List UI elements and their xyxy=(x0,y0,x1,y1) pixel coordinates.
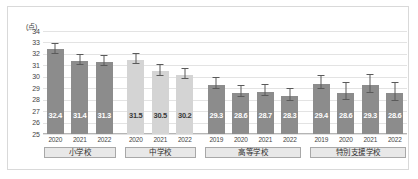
bar-value-label: 31.5 xyxy=(127,112,144,120)
bar-group-item[interactable]: 31.4 xyxy=(71,31,88,134)
bar[interactable] xyxy=(176,75,193,135)
y-axis-tick-label: 30 xyxy=(25,73,40,80)
bar-group-item[interactable]: 28.6 xyxy=(232,31,249,134)
error-bar-cap-upper xyxy=(181,68,188,69)
error-bar-cap-lower xyxy=(262,95,269,96)
bar-group-item[interactable]: 29.4 xyxy=(313,31,330,134)
group-label-高等学校: 高等学校 xyxy=(205,147,301,158)
error-bar-cap-upper xyxy=(213,77,220,78)
bar-group-item[interactable]: 28.6 xyxy=(386,31,403,134)
error-bar-cap-upper xyxy=(318,75,325,76)
error-bar-cap-lower xyxy=(52,53,59,54)
y-axis-tick-label: 28 xyxy=(25,96,40,103)
error-bar-cap-lower xyxy=(391,100,398,101)
bar-group-item[interactable]: 31.5 xyxy=(127,31,144,134)
error-bar-cap-lower xyxy=(318,88,325,89)
x-axis-tick-label: 2019 xyxy=(309,136,334,144)
y-axis-tick-label: 26 xyxy=(25,119,40,126)
bar[interactable] xyxy=(71,61,88,134)
plot-area: 32.431.431.331.530.530.229.328.628.728.3… xyxy=(43,31,407,134)
bar-value-label: 28.7 xyxy=(257,112,274,120)
bar-group-item[interactable]: 30.2 xyxy=(176,31,193,134)
error-bar-cap-upper xyxy=(132,53,139,54)
x-axis-tick-label: 2022 xyxy=(383,136,408,144)
group-labels: 小学校中学校高等学校特別支援学校 xyxy=(43,147,407,161)
x-axis-tick-label: 2022 xyxy=(92,136,117,144)
bar-value-label: 31.4 xyxy=(71,112,88,120)
x-axis-tick-label: 2020 xyxy=(229,136,254,144)
y-axis-tick-label: 31 xyxy=(25,62,40,69)
bar-value-label: 30.5 xyxy=(152,112,169,120)
bar-value-label: 29.3 xyxy=(362,112,379,120)
x-axis-tick-label: 2021 xyxy=(148,136,173,144)
bar-group-item[interactable]: 29.3 xyxy=(208,31,225,134)
bar-value-label: 28.6 xyxy=(386,112,403,120)
bar-value-label: 29.3 xyxy=(208,112,225,120)
error-bar-cap-upper xyxy=(76,54,83,55)
error-bar-cap-upper xyxy=(262,84,269,85)
x-axis-tick-label: 2020 xyxy=(124,136,149,144)
x-axis-tick-label: 2021 xyxy=(68,136,93,144)
error-bar xyxy=(394,83,395,101)
error-bar-cap-lower xyxy=(181,78,188,79)
bar-value-label: 30.2 xyxy=(176,112,193,120)
bar-value-label: 28.3 xyxy=(281,112,298,120)
bar-group-item[interactable]: 28.7 xyxy=(257,31,274,134)
x-axis-tick-label: 2022 xyxy=(278,136,303,144)
bar-group-item[interactable]: 28.3 xyxy=(281,31,298,134)
y-axis-tick-label: 29 xyxy=(25,85,40,92)
error-bar-cap-upper xyxy=(367,74,374,75)
y-axis-tick-label: 27 xyxy=(25,108,40,115)
bar-value-label: 29.4 xyxy=(313,112,330,120)
group-label-特別支援学校: 特別支援学校 xyxy=(310,147,406,158)
x-axis-tick-label: 2022 xyxy=(173,136,198,144)
x-axis-tick-label: 2019 xyxy=(204,136,229,144)
error-bar-cap-upper xyxy=(52,43,59,44)
error-bar-cap-lower xyxy=(237,96,244,97)
bar-value-label: 31.3 xyxy=(96,112,113,120)
group-label-小学校: 小学校 xyxy=(44,147,116,158)
error-bar-cap-lower xyxy=(213,88,220,89)
bar[interactable] xyxy=(127,60,144,134)
group-label-中学校: 中学校 xyxy=(125,147,197,158)
y-axis: 25262728293031323334 xyxy=(23,31,40,134)
bar[interactable] xyxy=(96,62,113,134)
bar-group-item[interactable]: 28.6 xyxy=(337,31,354,134)
error-bar xyxy=(345,83,346,100)
error-bar xyxy=(321,76,322,90)
bar[interactable] xyxy=(152,71,169,134)
bar-group-item[interactable]: 32.4 xyxy=(47,31,64,134)
x-axis-tick-label: 2021 xyxy=(253,136,278,144)
x-axis-tick-label: 2020 xyxy=(43,136,68,144)
error-bar-cap-upper xyxy=(237,85,244,86)
error-bar-cap-lower xyxy=(367,92,374,93)
bar-group-item[interactable]: 31.3 xyxy=(96,31,113,134)
y-axis-tick-label: 32 xyxy=(25,50,40,57)
x-axis-tick-label: 2020 xyxy=(334,136,359,144)
y-axis-tick-label: 33 xyxy=(25,39,40,46)
error-bar-cap-upper xyxy=(286,88,293,89)
y-axis-tick-label: 34 xyxy=(25,28,40,35)
x-axis-tick-label: 2021 xyxy=(358,136,383,144)
chart-frame: (点) 25262728293031323334 32.431.431.331.… xyxy=(7,6,409,170)
error-bar-cap-lower xyxy=(286,100,293,101)
error-bar xyxy=(370,75,371,93)
error-bar-cap-lower xyxy=(76,64,83,65)
error-bar-cap-upper xyxy=(342,82,349,83)
bar-value-label: 32.4 xyxy=(47,112,64,120)
bar-value-label: 28.6 xyxy=(337,112,354,120)
bar-group-item[interactable]: 30.5 xyxy=(152,31,169,134)
error-bar-cap-lower xyxy=(342,99,349,100)
error-bar-cap-lower xyxy=(157,75,164,76)
gridline xyxy=(43,134,407,135)
error-bar-cap-upper xyxy=(157,64,164,65)
bar[interactable] xyxy=(313,84,330,134)
error-bar-cap-lower xyxy=(132,63,139,64)
bar-value-label: 28.6 xyxy=(232,112,249,120)
y-axis-tick-label: 25 xyxy=(25,131,40,138)
bar-group-item[interactable]: 29.3 xyxy=(362,31,379,134)
error-bar-cap-upper xyxy=(391,82,398,83)
bar[interactable] xyxy=(208,85,225,134)
bar[interactable] xyxy=(47,49,64,134)
error-bar-cap-lower xyxy=(101,65,108,66)
